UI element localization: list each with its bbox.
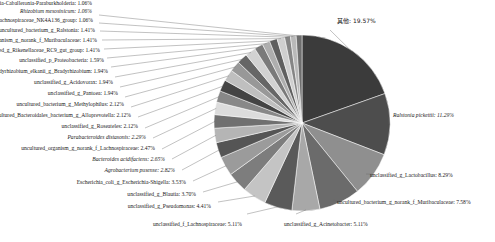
pie-slice-label: unclassified_g_Pantoea: 1.94%	[48, 90, 119, 96]
pie-chart-canvas: 其他: 19.57%Ralstonia pickettii: 11.29%unc…	[0, 0, 495, 242]
label-leader-line	[99, 15, 299, 36]
pie-slice-label: uncultured_bacterium_g_Lachnospiraceae_N…	[0, 17, 93, 23]
pie-slice-label: uncultured_organism_g_norank_f_Muribacul…	[0, 37, 97, 43]
pie-slice-label: Rhizobium mesosinicum: 1.06%	[19, 8, 92, 14]
label-leader-line	[193, 166, 226, 181]
pie-slice-label: uncultured_bacterium_g_norank_f_Muribacu…	[337, 199, 471, 205]
label-leader-line	[138, 86, 223, 117]
pie-slice-label: uncultured_Bacteroidales_bacterium_g_All…	[0, 112, 131, 118]
label-leader-line	[203, 182, 238, 192]
pie-slice-label: unclassified_g_Rikenellaceae_RC9_gut_gro…	[0, 47, 100, 53]
pie-slice-label: unclassified_g_Blautia: 3.70%	[127, 191, 196, 197]
pie-slice-label: Escherichia_coli_g_Escherichia-Shigella:…	[77, 179, 187, 185]
pie-slice-label: unclassified_g_Lactobacillus: 8.29%	[370, 172, 453, 178]
pie-slice-label: 其他: 19.57%	[337, 17, 376, 25]
pie-slice-label: Bacteroides acidifaciens: 2.65%	[92, 156, 165, 162]
pie-slice-label: unclassified_f_Lachnospiraceae: 5.11%	[153, 221, 242, 227]
label-leader-line	[218, 196, 255, 202]
pie-slice-label: unclassified_g_Acinetobacter: 5.11%	[284, 221, 368, 227]
label-leader-line	[153, 108, 216, 138]
label-leader-line	[182, 150, 219, 170]
label-leader-line	[104, 41, 274, 49]
pie-slice-label: Agrobacterium pusense: 2.82%	[104, 167, 176, 173]
label-leader-line	[247, 207, 278, 214]
pie-slice-label: uncultured_bacterium_g_Methylophilus: 2.…	[16, 101, 124, 107]
pie-slice-label: Ralstonia pickettii: 11.29%	[392, 112, 454, 118]
pie-slice-label: unclassified_g_Burkholderia-Caballeronia…	[0, 0, 92, 6]
pie-slice-label: unclassified_g_Roseateles: 2.12%	[62, 123, 139, 129]
pie-slice-label: unclassified_g_Acidovorax: 1.94%	[34, 79, 113, 85]
pie-slices-group	[214, 35, 390, 211]
label-leader-line	[162, 121, 215, 149]
pie-slice-label: Parabacteroides distasonis: 2.29%	[66, 134, 146, 140]
pie-chart-figure: 其他: 19.57%Ralstonia pickettii: 11.29%unc…	[0, 0, 495, 242]
pie-slice-label: uncultured_organism_g_norank_f_Lachnospi…	[21, 145, 155, 151]
label-leader-line	[107, 44, 266, 58]
pie-slice-label: unclassified_g_Pseudomonas: 4.41%	[128, 203, 212, 209]
pie-slice-label: Bradyrhizobium_elkanii_g_Bradyrhizobium:…	[0, 68, 108, 74]
pie-slice-label: uncultured_bacterium_g_Ralstonia: 1.41%	[0, 27, 95, 33]
pie-slice-label: unclassified_p_Proteobacteria: 1.59%	[19, 57, 104, 63]
label-leader-line	[102, 39, 281, 40]
